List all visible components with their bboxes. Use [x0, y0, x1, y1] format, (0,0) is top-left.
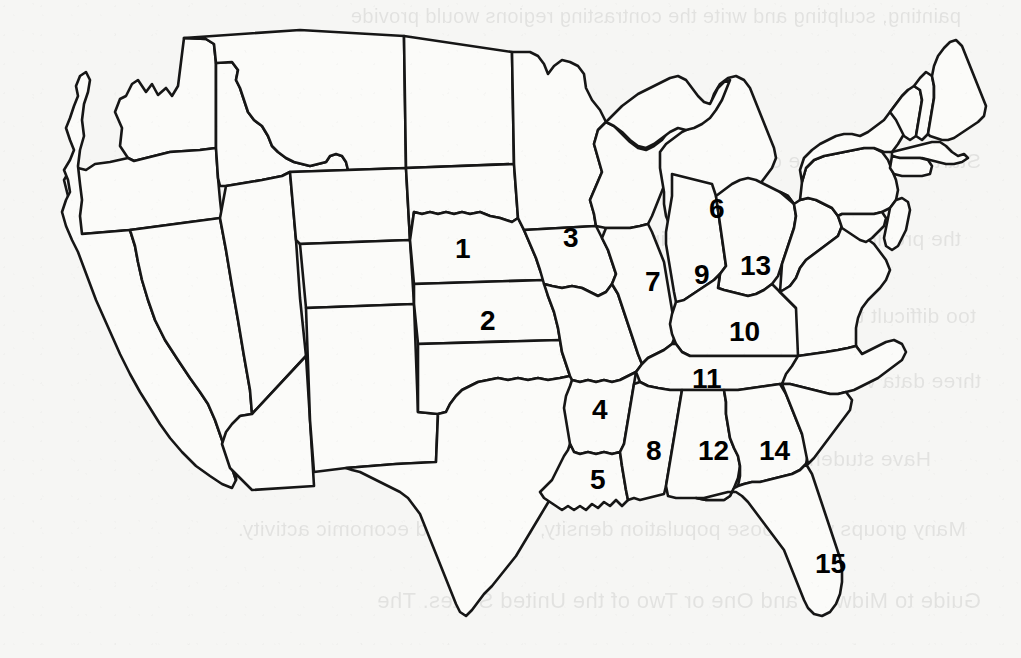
state-maine [928, 40, 986, 140]
state-number-9: 9 [694, 261, 710, 289]
state-number-1: 1 [455, 235, 471, 263]
state-number-7: 7 [645, 268, 661, 296]
state-number-6: 6 [709, 195, 725, 223]
state-number-4: 4 [592, 396, 608, 424]
state-washington [115, 38, 216, 161]
us-map-svg [0, 0, 1021, 658]
state-number-3: 3 [563, 224, 579, 252]
us-outline-map [0, 0, 1021, 658]
state-number-2: 2 [480, 307, 496, 335]
state-number-15: 15 [815, 550, 846, 578]
state-wyoming [290, 168, 410, 244]
state-number-14: 14 [759, 437, 790, 465]
state-northdakota [404, 36, 514, 168]
state-colorado [300, 240, 414, 308]
state-number-10: 10 [729, 318, 760, 346]
state-connecticut [890, 156, 932, 176]
state-number-13: 13 [740, 252, 771, 280]
state-number-5: 5 [590, 466, 606, 494]
state-number-12: 12 [698, 437, 729, 465]
state-number-8: 8 [646, 437, 662, 465]
worksheet-page: painting, sculpting and write the contra… [0, 0, 1021, 658]
state-number-11: 11 [692, 365, 722, 393]
